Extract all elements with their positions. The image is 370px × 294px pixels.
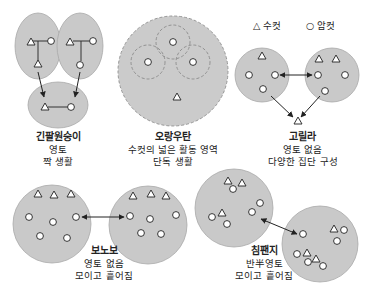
female-icon xyxy=(224,221,231,228)
species-desc: 영토 xyxy=(36,144,81,157)
legend-male: △ 수컷 xyxy=(253,18,281,32)
chimpanzee-label: 침팬지 반半영토 모이고 흩어짐 xyxy=(235,245,292,283)
species-desc: 단독 생활 xyxy=(128,156,218,169)
species-desc: 반半영토 xyxy=(235,258,292,271)
female-icon xyxy=(305,259,312,266)
male-icon xyxy=(294,117,302,124)
female-icon xyxy=(257,200,264,207)
legend-female-label: 암컷 xyxy=(317,20,335,31)
gorilla-group xyxy=(235,48,359,124)
gibbon-label: 긴팔원숭이 영토 짝 생활 xyxy=(36,131,81,169)
species-name: 오랑우탄 xyxy=(128,131,218,144)
female-icon xyxy=(48,38,55,45)
female-icon xyxy=(147,216,154,223)
species-desc: 짝 생활 xyxy=(36,156,81,169)
female-icon xyxy=(249,209,256,216)
species-name: 보노보 xyxy=(75,245,132,258)
female-icon xyxy=(77,62,84,69)
species-desc: 모이고 흩어짐 xyxy=(235,270,292,283)
female-icon xyxy=(50,219,57,226)
gorilla-label: 고릴라 영토 없음 다양한 집단 구성 xyxy=(268,131,337,169)
orangutan-label: 오랑우탄 수컷의 넓은 활동 영역 단독 생활 xyxy=(128,131,218,169)
species-name: 고릴라 xyxy=(268,131,337,144)
female-icon xyxy=(342,72,349,79)
female-icon xyxy=(230,186,237,193)
gibbon-territory-2 xyxy=(57,13,103,79)
female-icon xyxy=(260,86,267,93)
female-icon xyxy=(246,72,253,79)
female-icon xyxy=(64,235,71,242)
species-desc: 영토 없음 xyxy=(75,258,132,271)
gorilla-group-territory-2 xyxy=(305,48,359,102)
female-icon xyxy=(190,59,197,66)
orangutan-group xyxy=(118,16,228,126)
legend-female: ○ 암컷 xyxy=(306,18,335,32)
female-icon xyxy=(158,231,165,238)
female-icon xyxy=(320,263,327,270)
female-icon xyxy=(334,238,341,245)
species-desc: 수컷의 넓은 활동 영역 xyxy=(128,144,218,157)
orangutan-male-range xyxy=(118,16,228,126)
female-icon xyxy=(300,231,307,238)
female-icon xyxy=(173,212,180,219)
female-icon xyxy=(341,227,348,234)
species-desc: 모이고 흩어짐 xyxy=(75,270,132,283)
female-icon xyxy=(170,39,177,46)
legend-male-label: 수컷 xyxy=(263,20,281,31)
chimpanzee-community-2 xyxy=(282,206,358,282)
species-name: 긴팔원숭이 xyxy=(36,131,81,144)
chimpanzee-community-1 xyxy=(195,169,273,247)
female-icon xyxy=(322,88,329,95)
female-icon xyxy=(145,59,152,66)
bonobo-label: 보노보 영토 없음 모이고 흩어짐 xyxy=(75,245,132,283)
female-icon xyxy=(209,214,216,221)
gibbon-territory-offspring xyxy=(28,82,88,128)
female-icon xyxy=(127,213,134,220)
female-icon xyxy=(37,233,44,240)
female-icon xyxy=(315,72,322,79)
species-desc: 다양한 집단 구성 xyxy=(268,156,337,169)
female-icon xyxy=(272,72,279,79)
gibbon-group xyxy=(15,13,103,128)
female-icon xyxy=(90,38,97,45)
female-icon xyxy=(138,230,145,237)
circle-icon: ○ xyxy=(306,20,314,31)
triangle-icon: △ xyxy=(253,20,260,31)
female-icon xyxy=(26,214,33,221)
species-desc: 영토 없음 xyxy=(268,144,337,157)
female-icon xyxy=(68,104,75,111)
species-name: 침팬지 xyxy=(235,245,292,258)
female-icon xyxy=(73,214,80,221)
female-icon xyxy=(294,251,301,258)
